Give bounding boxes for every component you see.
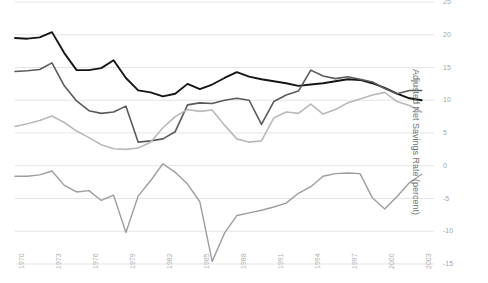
x-tick-label: 1994 — [314, 253, 321, 269]
x-tick-label: 1991 — [277, 253, 284, 269]
x-tick-label: 1979 — [129, 253, 136, 269]
x-tick-label: 1988 — [240, 253, 247, 269]
x-tick-label: 1982 — [166, 253, 173, 269]
y-axis-title-text: Adjusted Net Savings Rate (percent) — [411, 68, 421, 214]
x-tick-label: 1973 — [55, 253, 62, 269]
x-tick-label: 1985 — [203, 253, 210, 269]
line-chart: 2520151050-5-10-15 197019731976197919821… — [0, 0, 488, 283]
y-axis-title: Adjusted Net Savings Rate (percent) — [343, 0, 488, 283]
x-tick-label: 1976 — [92, 253, 99, 269]
x-tick-label: 1970 — [18, 253, 25, 269]
